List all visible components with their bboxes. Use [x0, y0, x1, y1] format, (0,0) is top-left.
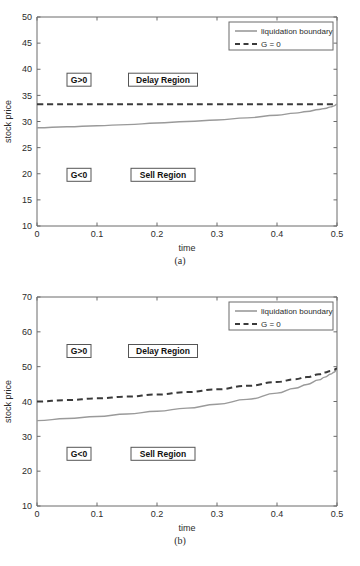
x-tick-label: 0.4	[271, 509, 284, 519]
region-label-text: G<0	[71, 449, 88, 459]
y-tick-label: 50	[22, 12, 32, 22]
region-label-text: Sell Region	[140, 170, 186, 180]
figure-panel-a: 10152025303540455000.10.20.30.40.5timest…	[0, 0, 360, 283]
y-tick-label: 40	[22, 397, 32, 407]
y-tick-label: 10	[22, 221, 32, 231]
x-tick-label: 0.3	[211, 229, 224, 239]
y-tick-label: 20	[22, 169, 32, 179]
x-tick-label: 0.5	[331, 509, 344, 519]
region-label-text: Sell Region	[140, 449, 186, 459]
y-tick-label: 30	[22, 432, 32, 442]
chart-a: 10152025303540455000.10.20.30.40.5timest…	[0, 0, 360, 260]
x-tick-label: 0.1	[91, 509, 104, 519]
x-tick-label: 0	[34, 229, 39, 239]
x-tick-label: 0.3	[211, 509, 224, 519]
figure-panel-b: 1020304050607000.10.20.30.40.5timestock …	[0, 283, 360, 566]
region-label-text: G>0	[71, 346, 88, 356]
series-line-liquidation-boundary	[37, 369, 337, 420]
y-tick-label: 20	[22, 466, 32, 476]
y-axis-title: stock price	[3, 100, 13, 143]
y-tick-label: 30	[22, 117, 32, 127]
region-label-text: G>0	[71, 75, 88, 85]
y-tick-label: 10	[22, 501, 32, 511]
y-tick-label: 70	[22, 292, 32, 302]
y-axis-title: stock price	[3, 380, 13, 423]
series-line-g-zero	[37, 368, 337, 401]
legend-entry-label: liquidation boundary	[261, 307, 333, 316]
region-label-text: G<0	[71, 170, 88, 180]
series-line-liquidation-boundary	[37, 104, 337, 128]
y-tick-label: 40	[22, 64, 32, 74]
y-tick-label: 35	[22, 91, 32, 101]
legend-entry-label: liquidation boundary	[261, 27, 333, 36]
y-tick-label: 60	[22, 327, 32, 337]
x-axis-title: time	[178, 523, 195, 533]
x-tick-label: 0.2	[151, 229, 164, 239]
caption-b: (b)	[0, 535, 360, 546]
x-tick-label: 0.1	[91, 229, 104, 239]
region-label-text: Delay Region	[136, 75, 190, 85]
legend-entry-label: G = 0	[261, 320, 281, 329]
x-tick-label: 0.5	[331, 229, 344, 239]
legend-entry-label: G = 0	[261, 40, 281, 49]
caption-a: (a)	[0, 255, 360, 266]
x-tick-label: 0.4	[271, 229, 284, 239]
x-tick-label: 0.2	[151, 509, 164, 519]
y-tick-label: 25	[22, 143, 32, 153]
x-axis-title: time	[178, 243, 195, 253]
x-tick-label: 0	[34, 509, 39, 519]
y-tick-label: 50	[22, 362, 32, 372]
chart-b: 1020304050607000.10.20.30.40.5timestock …	[0, 283, 360, 543]
region-label-text: Delay Region	[136, 346, 190, 356]
y-tick-label: 45	[22, 38, 32, 48]
y-tick-label: 15	[22, 195, 32, 205]
